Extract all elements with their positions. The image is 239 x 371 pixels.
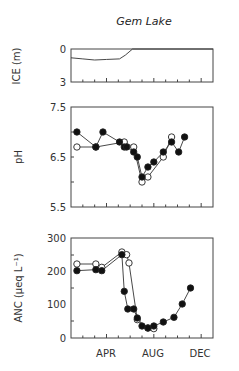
ice-y-tick-0: 0 (60, 44, 66, 55)
ice-y-tick-3: 3 (60, 77, 66, 88)
ice-y-axis-label: ICE (m) (11, 47, 22, 84)
ph-y-tick-7.5: 7.5 (50, 102, 66, 113)
anc-filled-point (121, 288, 127, 294)
anc-filled-point (151, 323, 157, 329)
x-tick-label-dec: DEC (189, 348, 210, 359)
ph-y-axis-label: pH (13, 150, 24, 164)
ph-filled-point (134, 154, 140, 160)
anc-x-ticks (83, 334, 201, 338)
anc-panel: ANC (μeq L⁻¹) 300 200 100 0 APR AUG DEC (13, 233, 213, 359)
anc-open-point (74, 261, 80, 267)
anc-series (74, 249, 194, 332)
figure-title: Gem Lake (116, 15, 172, 28)
anc-filled-point (134, 315, 140, 321)
ph-filled-point (145, 164, 151, 170)
anc-y-axis-label: ANC (μeq L⁻¹) (13, 253, 24, 322)
anc-filled-point (99, 267, 105, 273)
ph-filled-point (93, 144, 99, 150)
anc-y-tick-300: 300 (47, 233, 66, 244)
ice-ice thickness-line (71, 49, 213, 60)
ph-y-tick-5.5: 5.5 (50, 202, 66, 213)
anc-filled-point (171, 314, 177, 320)
ph-filled-point (116, 139, 122, 145)
ph-plot-frame (71, 107, 213, 207)
x-tick-label-aug: AUG (142, 348, 164, 359)
ph-filled-point (139, 174, 145, 180)
ph-filled-point (175, 149, 181, 155)
ph-filled-point (151, 159, 157, 165)
anc-filled-point (93, 266, 99, 272)
anc-filled-point (145, 325, 151, 331)
ph-filled-point (168, 139, 174, 145)
ph-y-tick-6.5: 6.5 (50, 152, 66, 163)
anc-filled-point (160, 319, 166, 325)
ph-filled-point (100, 129, 106, 135)
anc-filled-point (187, 285, 193, 291)
anc-filled-point (139, 323, 145, 329)
ice-panel: ICE (m) 0 3 (11, 44, 213, 88)
anc-filled-point (131, 306, 137, 312)
anc-filled-point (119, 251, 125, 257)
ph-panel: pH 7.5 6.5 5.5 (13, 102, 213, 213)
gem-lake-figure: Gem Lake ICE (m) 0 3 pH 7.5 6.5 5.5 ANC … (0, 0, 239, 371)
ph-filled-point (123, 144, 129, 150)
ph-filled-point (160, 149, 166, 155)
ph-filled-point (74, 129, 80, 135)
ice-plot-frame (71, 49, 213, 82)
ph-x-ticks (83, 203, 201, 207)
anc-filled-point (125, 306, 131, 312)
anc-y-tick-100: 100 (47, 299, 66, 310)
anc-filled-point (74, 267, 80, 273)
ph-series (74, 129, 188, 185)
ph-open-point (145, 174, 151, 180)
ph-filled-point (181, 134, 187, 140)
anc-filled-point (179, 301, 185, 307)
anc-y-tick-200: 200 (47, 266, 66, 277)
anc-open-point (126, 260, 132, 266)
ice-x-ticks (83, 78, 201, 82)
ph-open-point (74, 144, 80, 150)
x-tick-label-apr: APR (96, 348, 116, 359)
ice-series (71, 49, 213, 60)
anc-y-tick-0: 0 (60, 333, 66, 344)
anc-open-line (77, 252, 154, 329)
